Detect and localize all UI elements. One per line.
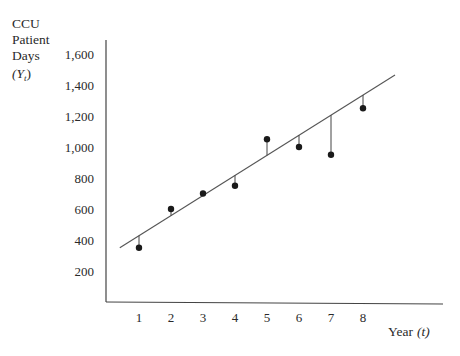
- data-point: [296, 144, 302, 150]
- x-axis-title-text: Year(t): [388, 324, 430, 339]
- data-point: [328, 152, 334, 158]
- y-tick-label: 600: [75, 202, 95, 217]
- data-point: [264, 136, 270, 142]
- chart: CCU Patient Days (Yt) 2004006008001,0001…: [0, 0, 460, 356]
- x-axis-title-word: Year: [388, 324, 413, 339]
- x-tick-label: 1: [136, 310, 143, 325]
- x-tick-label: 2: [168, 310, 175, 325]
- x-axis: [106, 302, 443, 304]
- x-tick-label: 8: [360, 310, 367, 325]
- data-points: [136, 105, 366, 251]
- data-point: [168, 206, 174, 212]
- y-axis-title-line-3: Days: [12, 48, 40, 63]
- y-tick-label: 1,000: [65, 140, 94, 155]
- x-tick-label: 5: [264, 310, 271, 325]
- x-tick-label: 6: [296, 310, 303, 325]
- data-point: [200, 190, 206, 196]
- data-point: [360, 105, 366, 111]
- y-symbol-close: ): [27, 66, 32, 81]
- trend-line: [120, 75, 395, 248]
- y-tick-labels: 2004006008001,0001,2001,4001,600: [65, 47, 94, 279]
- y-tick-label: 200: [75, 264, 95, 279]
- y-axis-title-symbol: (Yt): [12, 66, 31, 83]
- y-tick-label: 1,600: [65, 47, 94, 62]
- y-axis-title: CCU Patient Days (Yt): [12, 16, 50, 83]
- y-tick-label: 800: [75, 171, 95, 186]
- x-axis-title: Year(t): [388, 324, 430, 339]
- x-tick-labels: 12345678: [136, 310, 367, 325]
- data-point: [232, 183, 238, 189]
- y-tick-label: 400: [75, 233, 95, 248]
- data-point: [136, 245, 142, 251]
- y-axis-title-line-1: CCU: [12, 16, 40, 31]
- x-tick-label: 7: [328, 310, 335, 325]
- y-tick-label: 1,200: [65, 109, 94, 124]
- x-tick-label: 3: [200, 310, 207, 325]
- x-axis-title-symbol: (t): [417, 324, 430, 339]
- y-axis-title-line-2: Patient: [12, 32, 50, 47]
- x-tick-label: 4: [232, 310, 239, 325]
- residuals: [139, 95, 363, 248]
- axes: [106, 40, 443, 304]
- y-tick-label: 1,400: [65, 78, 94, 93]
- trend-line-group: [120, 75, 395, 248]
